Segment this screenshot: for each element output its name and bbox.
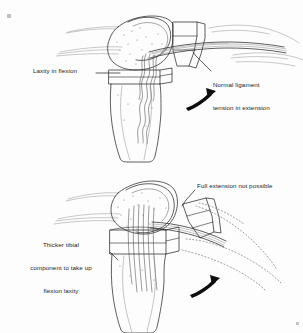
label-thicker-tibial-line3: flexion laxity xyxy=(14,287,108,295)
label-thicker-tibial-component: Thicker tibial component to take up flex… xyxy=(14,226,108,302)
label-thicker-tibial-line2: component to take up xyxy=(14,264,108,272)
label-full-extension-not-possible: Full extension not possible xyxy=(197,182,273,190)
label-normal-ligament-tension: Normal ligament tension in extension xyxy=(213,66,270,119)
label-thicker-tibial-line1: Thicker tibial xyxy=(14,241,108,249)
label-normal-ligament-line2: tension in extension xyxy=(213,104,270,112)
label-laxity-in-flexion: Laxity in flexion xyxy=(33,67,77,75)
label-normal-ligament-line1: Normal ligament xyxy=(213,81,270,89)
